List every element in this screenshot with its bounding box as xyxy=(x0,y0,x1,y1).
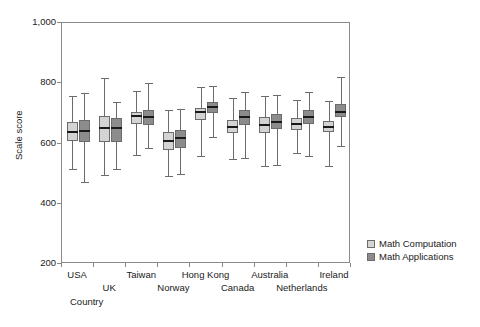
x-category-label: Taiwan xyxy=(126,270,156,280)
whisker-upper xyxy=(341,77,342,105)
median-line xyxy=(207,106,218,108)
whisker-cap-upper xyxy=(145,83,153,84)
y-tick-label: 400 xyxy=(22,198,56,208)
whisker-cap-lower xyxy=(241,158,249,159)
whisker-upper xyxy=(309,92,310,109)
whisker-cap-upper xyxy=(337,77,345,78)
whisker-cap-lower xyxy=(305,156,313,157)
whisker-cap-lower xyxy=(113,169,121,170)
median-line xyxy=(227,126,238,128)
median-line xyxy=(195,111,206,113)
whisker-upper xyxy=(213,86,214,102)
x-tick-mark xyxy=(286,263,287,267)
legend-label: Math Computation xyxy=(379,239,457,249)
whisker-lower xyxy=(180,148,181,174)
legend-swatch-icon xyxy=(367,253,375,261)
x-category-label: Canada xyxy=(221,283,254,293)
whisker-lower xyxy=(213,113,214,137)
whisker-cap-lower xyxy=(101,175,109,176)
median-line xyxy=(131,115,142,117)
whisker-upper xyxy=(245,92,246,110)
x-tick-mark xyxy=(61,263,62,267)
median-line xyxy=(67,131,78,133)
median-line xyxy=(163,140,174,142)
whisker-lower xyxy=(168,150,169,176)
whisker-cap-lower xyxy=(325,166,333,167)
y-tick-label: 200 xyxy=(22,258,56,268)
whisker-lower xyxy=(72,141,73,169)
x-tick-mark xyxy=(254,263,255,267)
whisker-cap-upper xyxy=(81,93,89,94)
whisker-cap-lower xyxy=(197,156,205,157)
chart-figure: Scale score 2004006008001,000 USAUKTaiwa… xyxy=(0,0,480,327)
box-iqr xyxy=(131,112,142,124)
x-tick-mark xyxy=(157,263,158,267)
whisker-upper xyxy=(201,87,202,108)
whisker-cap-lower xyxy=(177,174,185,175)
median-line xyxy=(291,123,302,125)
whisker-cap-upper xyxy=(133,91,141,92)
box-iqr xyxy=(195,108,206,120)
whisker-upper xyxy=(84,93,85,120)
whisker-upper xyxy=(265,96,266,117)
whisker-cap-upper xyxy=(261,96,269,97)
whisker-cap-lower xyxy=(261,166,269,167)
whisker-lower xyxy=(104,142,105,175)
whisker-lower xyxy=(148,125,149,148)
whisker-cap-upper xyxy=(197,87,205,88)
whisker-lower xyxy=(341,117,342,146)
median-line xyxy=(111,127,122,129)
whisker-cap-upper xyxy=(273,95,281,96)
x-category-label: Hong Kong xyxy=(182,270,230,280)
median-line xyxy=(335,111,346,113)
whisker-lower xyxy=(277,129,278,165)
whisker-lower xyxy=(136,124,137,155)
plot-area xyxy=(61,22,350,263)
whisker-upper xyxy=(136,91,137,112)
x-tick-mark xyxy=(350,263,351,267)
x-category-label: Norway xyxy=(157,283,189,293)
legend-item: Math Computation xyxy=(367,238,457,249)
y-axis-label: Scale score xyxy=(13,110,24,160)
whisker-lower xyxy=(329,132,330,166)
x-category-label: Ireland xyxy=(319,270,348,280)
whisker-cap-lower xyxy=(293,153,301,154)
x-axis-label: Country xyxy=(70,296,103,307)
whisker-lower xyxy=(201,120,202,156)
whisker-cap-lower xyxy=(81,182,89,183)
x-tick-mark xyxy=(125,263,126,267)
whisker-cap-lower xyxy=(209,137,217,138)
whisker-upper xyxy=(148,83,149,110)
legend-item: Math Applications xyxy=(367,251,457,262)
whisker-upper xyxy=(72,96,73,122)
whisker-cap-upper xyxy=(177,109,185,110)
legend-label: Math Applications xyxy=(379,252,453,262)
whisker-upper xyxy=(277,95,278,114)
whisker-upper xyxy=(116,102,117,118)
y-tick-label: 800 xyxy=(22,77,56,87)
median-line xyxy=(271,121,282,123)
whisker-lower xyxy=(297,130,298,153)
whisker-cap-upper xyxy=(305,92,313,93)
median-line xyxy=(239,116,250,118)
median-line xyxy=(259,124,270,126)
box-iqr xyxy=(111,118,122,142)
whisker-cap-upper xyxy=(69,96,77,97)
whisker-cap-upper xyxy=(209,86,217,87)
median-line xyxy=(143,116,154,118)
whisker-lower xyxy=(116,142,117,169)
median-line xyxy=(79,130,90,132)
median-line xyxy=(303,116,314,118)
x-tick-mark xyxy=(222,263,223,267)
whisker-upper xyxy=(297,100,298,118)
whisker-upper xyxy=(168,110,169,132)
whisker-lower xyxy=(245,125,246,158)
whisker-cap-upper xyxy=(101,78,109,79)
legend-swatch-icon xyxy=(367,240,375,248)
x-tick-mark xyxy=(189,263,190,267)
whisker-upper xyxy=(329,101,330,121)
whisker-lower xyxy=(309,124,310,156)
x-category-label: Netherlands xyxy=(276,283,327,293)
whisker-cap-lower xyxy=(273,165,281,166)
whisker-cap-lower xyxy=(229,159,237,160)
